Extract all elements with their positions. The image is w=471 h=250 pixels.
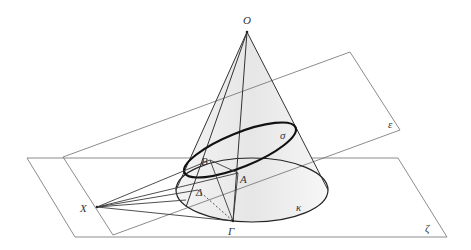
label-Delta: Δ (195, 186, 202, 198)
label-kappa: κ (296, 201, 302, 213)
label-sigma: σ (280, 129, 286, 141)
point-X (96, 206, 99, 209)
point-Gamma (232, 220, 234, 222)
diagram-canvas: O B A Δ Γ X σ κ ε ζ (0, 0, 471, 250)
label-X: X (79, 202, 88, 214)
cone-diagram: O B A Δ Γ X σ κ ε ζ (0, 0, 471, 250)
label-zeta: ζ (425, 222, 431, 235)
label-B: B (201, 155, 208, 167)
point-O (246, 31, 249, 34)
label-O: O (243, 14, 251, 26)
label-epsilon: ε (388, 118, 393, 130)
label-Gamma: Γ (227, 225, 235, 237)
label-A: A (239, 173, 247, 185)
